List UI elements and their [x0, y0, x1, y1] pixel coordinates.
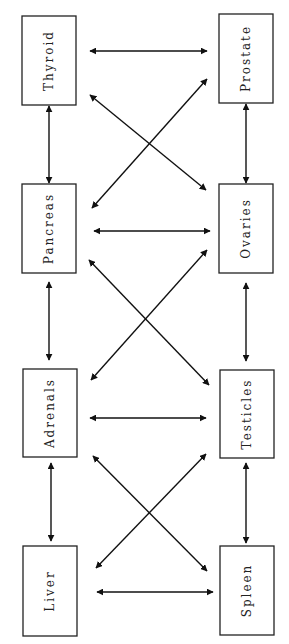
- node-label: Testicles: [240, 379, 254, 450]
- node-label: Spleen: [240, 564, 254, 618]
- arrow-pancreas-testicles: [89, 260, 209, 385]
- arrow-thyroid-ovaries: [90, 95, 206, 190]
- node-label: Thyroid: [42, 30, 56, 91]
- endocrine-diagram: ThyroidProstatePancreasOvariesAdrenalsTe…: [0, 0, 289, 644]
- node-label: Liver: [43, 570, 57, 611]
- node-spleen: Spleen: [220, 546, 274, 635]
- edges-layer: [49, 51, 246, 592]
- node-label: Prostate: [239, 25, 253, 92]
- node-testicles: Testicles: [220, 370, 274, 458]
- node-ovaries: Ovaries: [219, 184, 273, 273]
- arrow-ovaries-adrenals: [91, 250, 207, 380]
- node-prostate: Prostate: [219, 14, 273, 103]
- nodes-layer: ThyroidProstatePancreasOvariesAdrenalsTe…: [22, 14, 274, 636]
- node-thyroid: Thyroid: [22, 16, 76, 105]
- arrow-testicles-liver: [96, 454, 206, 568]
- node-pancreas: Pancreas: [22, 184, 76, 273]
- node-liver: Liver: [23, 546, 77, 636]
- node-label: Ovaries: [239, 198, 253, 259]
- node-label: Pancreas: [42, 193, 56, 264]
- node-label: Adrenals: [43, 378, 57, 449]
- arrow-prostate-pancreas: [92, 79, 207, 208]
- node-adrenals: Adrenals: [23, 369, 77, 457]
